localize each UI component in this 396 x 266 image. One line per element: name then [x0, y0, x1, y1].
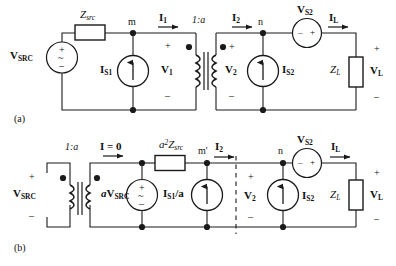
caption-panel-a: (a): [14, 114, 25, 124]
label-v2-b: V2: [244, 190, 256, 201]
label-turns-ratio-b: 1:a: [65, 142, 78, 152]
v1-a-plus: +: [165, 41, 171, 51]
label-vs2-a: VS2: [297, 4, 313, 15]
label-zsrc-a: Zsrc: [80, 9, 95, 20]
resistor-a2zsrc-b: [155, 156, 185, 171]
node-dot-a-bottom-left: [130, 107, 136, 113]
wire-b-prim-bot: [47, 205, 70, 227]
avsrc-b-minus-symbol: –: [139, 199, 144, 209]
label-node-m-prime-b: m': [198, 146, 208, 156]
node-dot-m-prime-b: [204, 160, 210, 166]
vl-a-plus: +: [374, 44, 380, 54]
vl-b-minus: –: [374, 214, 379, 224]
node-dot-b-is1a-bottom: [204, 224, 210, 230]
dot-polarity-a-sec: [220, 44, 226, 50]
node-dot-b-avsrc-bottom: [139, 224, 145, 230]
source-vs2-a: [293, 19, 322, 48]
label-vs2-b: VS2: [297, 134, 313, 145]
label-zl-b: ZL: [330, 189, 340, 200]
v1-a-minus: –: [165, 91, 170, 101]
label-is1-a: IS1: [100, 64, 112, 75]
resistor-zsrc-a: [75, 25, 105, 40]
panel-a-schematic: [47, 19, 364, 114]
vs2-a-minus: –: [298, 28, 303, 37]
vl-b-plus: +: [374, 168, 380, 178]
wire-a-vs2-to-load: [322, 33, 357, 57]
node-dot-a-bottom-right: [260, 107, 266, 113]
label-avsrc-b: aVSRC: [101, 188, 129, 199]
v2-b-plus: +: [248, 172, 254, 182]
dot-polarity-a-prim: [186, 44, 192, 50]
label-node-m-a: m: [128, 17, 136, 27]
vsrc-a-minus-symbol: –: [59, 61, 64, 71]
label-vsrc-a: VSRC: [10, 50, 33, 61]
label-current-il-a: IL: [329, 12, 338, 23]
label-current-i-zero-b: I = 0: [100, 141, 122, 152]
label-current-il-b: IL: [331, 141, 340, 152]
v2-b-minus: –: [248, 212, 253, 222]
caption-panel-b: (b): [14, 243, 26, 253]
load-zl-a: [349, 57, 363, 87]
label-node-n-b: n: [278, 146, 283, 156]
wire-b-vs2-to-load: [322, 163, 357, 180]
node-dot-n-a: [260, 30, 266, 36]
label-is2-a: IS2: [282, 64, 294, 75]
node-dot-b-is2-bottom: [280, 224, 286, 230]
label-current-i2-b: I2: [215, 141, 223, 152]
wire-b-bottom-rail: [90, 205, 356, 227]
label-current-i1-a: I1: [159, 12, 167, 23]
circuit-canvas: [0, 0, 396, 266]
source-vs2-b: [293, 149, 322, 178]
coil-secondary-a: [212, 55, 216, 87]
label-v1-a: V1: [161, 64, 173, 75]
label-vsrc-b: VSRC: [13, 188, 36, 199]
node-dot-m-a: [130, 30, 136, 36]
panel-b-schematic: [47, 149, 363, 235]
vsrc-b-minus: –: [29, 211, 34, 221]
dot-polarity-b-sec: [94, 175, 100, 181]
v2-a-plus: +: [229, 42, 235, 52]
circuit-figure: VSRC + ~ – Zsrc m I1 IS1 + V1 – 1:a I2 +…: [0, 0, 396, 266]
vs2-a-plus: +: [310, 28, 315, 37]
label-node-n-a: n: [258, 17, 263, 27]
label-a2zsrc-b: a2Zsrc: [159, 139, 183, 150]
label-v2-a: V2: [225, 64, 237, 75]
label-zl-a: ZL: [330, 64, 340, 75]
label-current-i2-a: I2: [232, 12, 240, 23]
load-zl-b: [349, 180, 363, 210]
v2-a-minus: –: [229, 91, 234, 101]
vsrc-b-plus: +: [29, 172, 35, 182]
coil-primary-b: [70, 185, 74, 209]
vs2-b-minus: –: [298, 158, 303, 167]
dot-polarity-b-prim: [60, 175, 66, 181]
label-turns-ratio-a: 1:a: [192, 15, 205, 25]
label-vl-a: VL: [370, 65, 383, 76]
wire-b-prim-top: [47, 163, 70, 185]
label-is1-over-a-b: IS1/a: [163, 188, 184, 199]
label-is2-b: IS2: [302, 190, 314, 201]
vs2-b-plus: +: [310, 158, 315, 167]
label-vl-b: VL: [370, 189, 383, 200]
node-dot-n-b: [280, 160, 286, 166]
coil-primary-a: [196, 55, 200, 87]
coil-secondary-b: [86, 185, 90, 209]
wire-a-src-top-left: [62, 33, 75, 42]
vl-a-minus: –: [374, 92, 379, 102]
